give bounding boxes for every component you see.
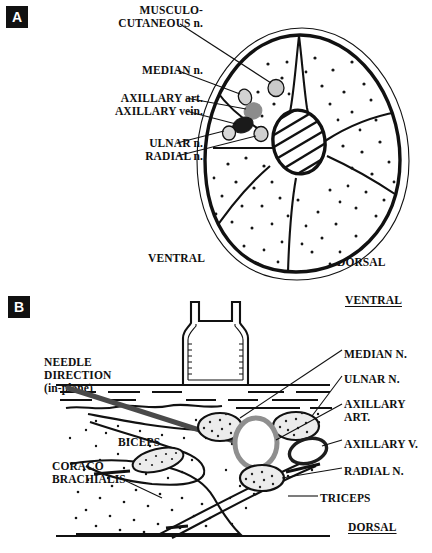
musculocutaneous-nerve-b: [130, 443, 186, 477]
figure-root: A MUSCULO- CUTANEOUS n. MEDIAN n. AXILLA…: [0, 0, 432, 553]
panel-a-drawing: [0, 0, 432, 288]
panel-b: B VENTRAL DORSAL USG PROBE NEEDLE DIRECT…: [0, 288, 432, 553]
panel-a: A MUSCULO- CUTANEOUS n. MEDIAN n. AXILLA…: [0, 0, 432, 288]
ulnar-nerve-a: [223, 126, 236, 140]
radial-nerve-a: [254, 127, 268, 142]
panel-b-drawing: [0, 288, 432, 553]
radial-nerve-b: [240, 465, 284, 491]
axillary-artery-b: [235, 418, 277, 468]
usg-probe: [183, 302, 248, 385]
